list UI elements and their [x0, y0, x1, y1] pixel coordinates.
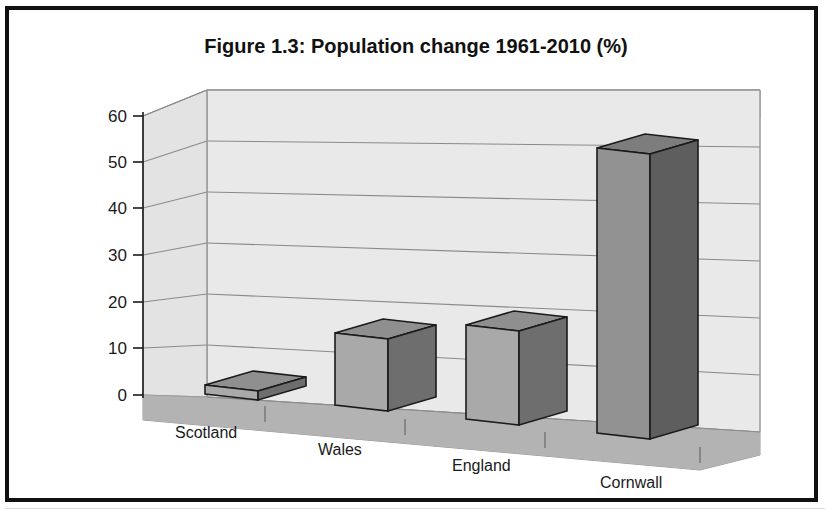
- bar-cornwall-side: [650, 140, 698, 439]
- left-wall: [143, 90, 207, 397]
- y-tick-label-0: 0: [118, 386, 127, 405]
- population-change-bar-chart: Figure 1.3: Population change 1961-2010 …: [0, 0, 833, 519]
- y-axis: 60 50 40 30 20 10 0: [108, 107, 143, 405]
- bar-cornwall-front: [597, 148, 650, 439]
- x-label-cornwall: Cornwall: [600, 474, 662, 491]
- y-tick-label-30: 30: [108, 246, 127, 265]
- y-tick-label-50: 50: [108, 153, 127, 172]
- bar-cornwall[interactable]: [597, 134, 698, 439]
- bar-wales-side: [388, 325, 436, 411]
- bar-wales-front: [335, 333, 388, 411]
- bar-england-front: [466, 325, 519, 425]
- y-tick-label-10: 10: [108, 339, 127, 358]
- figure-container: Figure 1.3: Population change 1961-2010 …: [0, 0, 833, 519]
- y-tick-label-20: 20: [108, 293, 127, 312]
- x-label-wales: Wales: [318, 441, 362, 458]
- bar-wales[interactable]: [335, 319, 436, 411]
- x-label-scotland: Scotland: [175, 424, 237, 441]
- bar-england[interactable]: [466, 311, 567, 425]
- bar-england-side: [519, 317, 567, 425]
- chart-title: Figure 1.3: Population change 1961-2010 …: [204, 35, 627, 57]
- y-tick-label-60: 60: [108, 107, 127, 126]
- x-label-england: England: [452, 457, 511, 474]
- y-tick-label-40: 40: [108, 199, 127, 218]
